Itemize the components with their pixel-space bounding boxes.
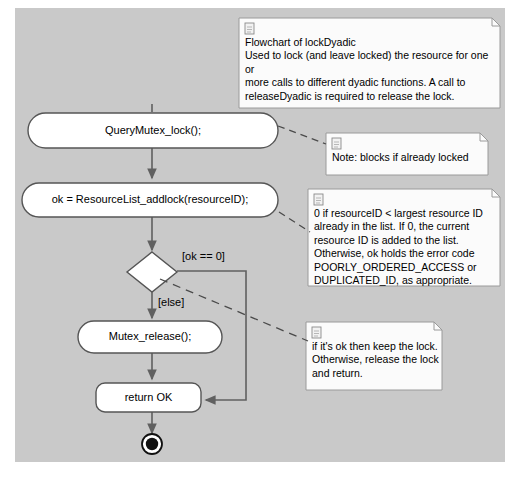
document-icon: [332, 138, 341, 149]
note-box-blocks[interactable]: [326, 133, 488, 175]
activity-diagram: QueryMutex_lock(); ok = ResourceList_add…: [0, 0, 518, 479]
document-icon: [245, 23, 254, 34]
note-box-resourceid[interactable]: [308, 189, 500, 286]
activity-node-return-ok[interactable]: [96, 383, 201, 412]
activity-node-query-mutex-lock[interactable]: [28, 113, 278, 148]
activity-node-resourcelist-addlock[interactable]: [22, 183, 278, 217]
note-anchor-blocks: [278, 126, 326, 144]
diagram-shape-layer: [0, 0, 518, 479]
note-box-flowchart[interactable]: [239, 18, 500, 108]
activity-node-mutex-release[interactable]: [78, 321, 222, 353]
activity-final-node: [142, 434, 162, 454]
note-anchor-resourceid: [279, 212, 310, 232]
decision-diamond: [127, 252, 177, 292]
document-icon: [312, 327, 321, 338]
document-icon: [314, 194, 323, 205]
note-box-keeplock[interactable]: [306, 322, 442, 390]
